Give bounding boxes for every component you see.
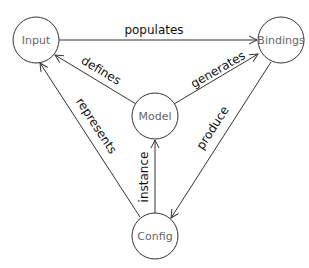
edge-label-generates: generates xyxy=(188,48,248,90)
edge-populates: populates xyxy=(59,23,257,40)
edge-label-instance: instance xyxy=(137,152,151,203)
edge-generates: generates xyxy=(174,48,258,104)
node-config: Config xyxy=(132,213,178,259)
edge-represents: represents xyxy=(40,63,140,217)
node-label-bindings: Bindings xyxy=(257,34,305,47)
node-input: Input xyxy=(13,17,59,63)
node-model: Model xyxy=(132,93,178,139)
edge-defines: defines xyxy=(55,53,136,104)
node-bindings: Bindings xyxy=(257,17,305,63)
diagram-canvas: populates defines generates represents i… xyxy=(0,0,309,268)
node-label-config: Config xyxy=(137,230,172,243)
edge-instance: instance xyxy=(137,140,155,213)
edge-produce: produce xyxy=(171,62,271,218)
edge-label-produce: produce xyxy=(193,104,231,153)
node-label-model: Model xyxy=(138,110,171,123)
node-label-input: Input xyxy=(22,34,51,47)
edge-label-represents: represents xyxy=(73,95,120,156)
edge-label-populates: populates xyxy=(124,23,183,37)
